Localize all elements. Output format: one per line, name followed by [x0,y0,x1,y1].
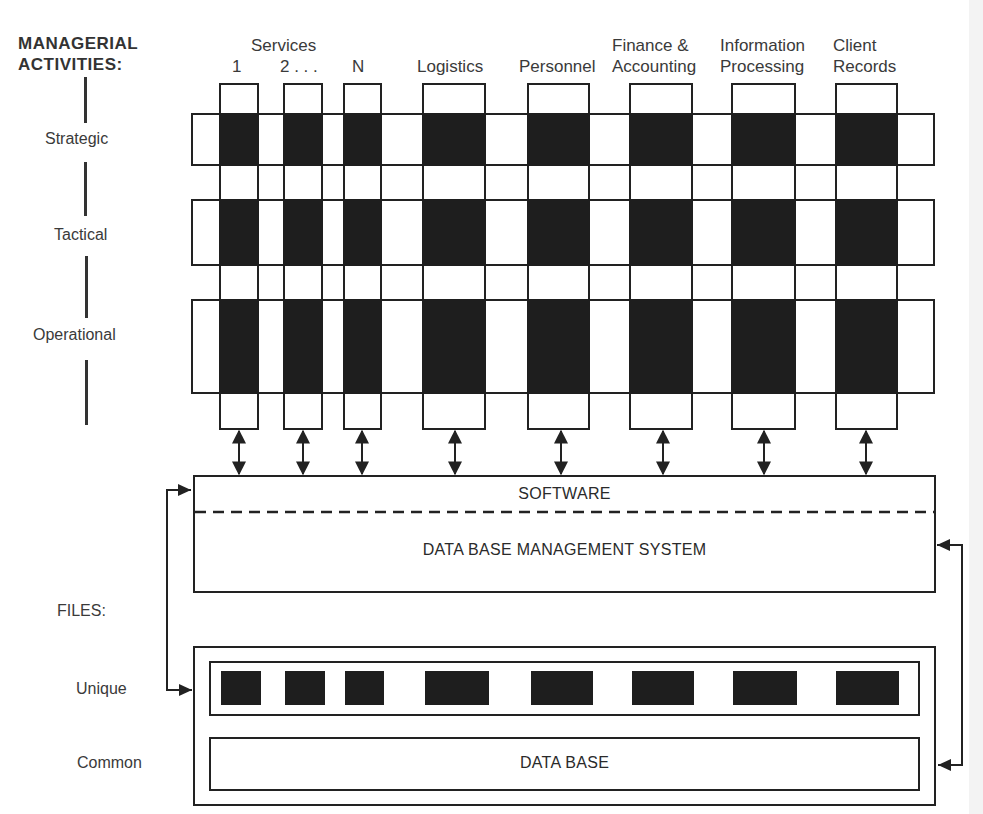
left-loop-line [167,490,192,690]
arrow-right-icon [178,484,191,496]
arrow-left-icon [937,539,950,551]
arrow-right-icon [179,684,192,696]
connector-arrows [0,0,983,814]
arrow-left-icon [938,759,951,771]
right-loop-line [937,545,962,765]
